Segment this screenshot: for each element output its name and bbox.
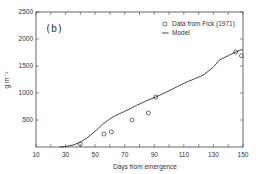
plot-frame [36, 12, 243, 147]
y-axis-label: g m⁻² [3, 71, 11, 89]
x-axis-ticks: 1030507090110130150 [32, 12, 248, 158]
panel-label: (b) [45, 23, 63, 34]
data-point-marker [130, 118, 134, 122]
y-tick-label: 500 [22, 116, 33, 123]
x-tick-label: 90 [151, 151, 159, 158]
data-point-marker [146, 111, 150, 115]
x-tick-label: 50 [92, 151, 100, 158]
legend: Data from Fick (1971) Model [162, 20, 235, 36]
y-tick-label: 2500 [19, 8, 34, 15]
y-tick-label: 1000 [19, 89, 34, 96]
x-tick-label: 30 [62, 151, 70, 158]
y-tick-label: 1500 [19, 62, 34, 69]
x-axis-label: Days from emergence [113, 163, 177, 171]
legend-marker-icon [163, 22, 167, 26]
x-tick-label: 110 [179, 151, 190, 158]
data-points [78, 50, 243, 146]
legend-label-data: Data from Fick (1971) [172, 20, 235, 28]
x-tick-label: 130 [208, 151, 219, 158]
x-tick-label: 150 [238, 151, 249, 158]
data-point-marker [102, 132, 106, 136]
x-tick-label: 10 [32, 151, 40, 158]
growth-chart: 1030507090110130150 5001000150020002500 … [0, 0, 256, 174]
model-line [60, 49, 243, 147]
x-tick-label: 70 [121, 151, 129, 158]
y-tick-label: 2000 [19, 35, 34, 42]
legend-label-model: Model [172, 29, 190, 36]
data-point-marker [109, 130, 113, 134]
